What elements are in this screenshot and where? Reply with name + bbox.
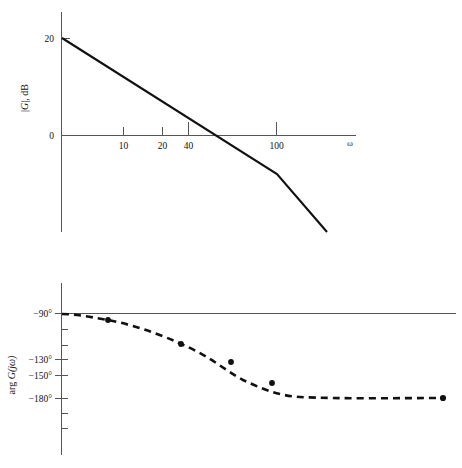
magnitude-y-title-symbol: G [19,103,30,110]
phase-ytick-label-minus180: −180° [29,394,53,404]
phase-response-curve [62,314,443,398]
bode-plot-svg: 20 0 10 20 40 100 ω |G|, dB [0,0,462,468]
phase-ytick-label-minus90: −90° [33,309,52,319]
magnitude-y-title-rest: |, dB [19,84,30,103]
phase-data-point [178,341,184,347]
phase-plot-group: −90° −130° −150° −180° arg G(jω) [6,283,456,455]
phase-y-title-symbol: G [6,372,17,379]
magnitude-xtick-label-100: 100 [269,141,284,151]
magnitude-ytick-label-20: 20 [45,34,55,44]
phase-ytick-label-minus130: −130° [29,355,53,365]
magnitude-xtick-label-20: 20 [158,141,168,151]
phase-y-title-argument: (jω) [6,355,18,372]
phase-ytick-label-minus150: −150° [29,371,53,381]
phase-y-title-prefix: arg [6,379,17,394]
svg-text:|G|, dB: |G|, dB [19,84,30,112]
magnitude-x-axis-symbol: ω [347,138,353,148]
svg-text:arg G(jω): arg G(jω) [6,355,18,394]
magnitude-xtick-label-10: 10 [119,141,129,151]
magnitude-xtick-label-40: 40 [184,141,194,151]
bode-plot-figure: 20 0 10 20 40 100 ω |G|, dB [0,0,462,468]
phase-data-point [105,317,111,323]
magnitude-ytick-label-0: 0 [49,131,54,141]
phase-data-point [228,359,234,365]
phase-y-axis-title: arg G(jω) [6,355,18,394]
phase-data-point [269,380,275,386]
magnitude-plot-group: 20 0 10 20 40 100 ω |G|, dB [19,12,356,232]
magnitude-y-axis-title: |G|, dB [19,84,30,112]
phase-data-point [440,395,446,401]
